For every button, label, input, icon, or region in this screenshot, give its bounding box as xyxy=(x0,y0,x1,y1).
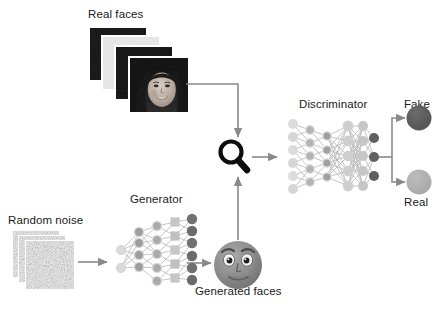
output-circles xyxy=(0,0,447,316)
real-output-circle xyxy=(407,170,432,195)
fake-output-circle xyxy=(407,106,432,131)
gan-diagram: Real faces xyxy=(0,0,447,316)
